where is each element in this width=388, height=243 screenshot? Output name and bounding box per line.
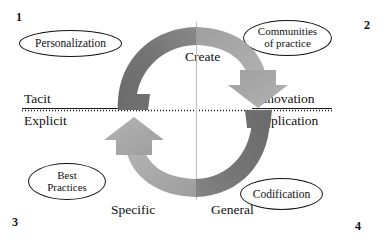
share-arc-dark-segment bbox=[196, 112, 270, 197]
create-arrowhead bbox=[228, 70, 288, 108]
share-arrowhead bbox=[104, 117, 164, 155]
cycle-arrow-loop bbox=[0, 0, 388, 243]
diagram-canvas: 1 2 3 4 Tacit Explicit Innovation Replic… bbox=[0, 0, 388, 243]
